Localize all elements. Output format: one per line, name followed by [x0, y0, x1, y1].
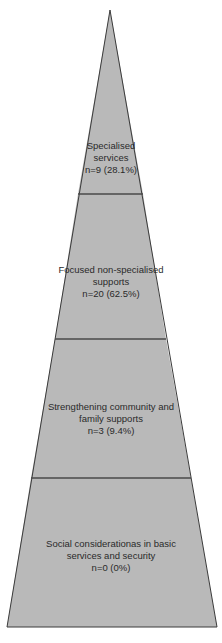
tier-1-stat: n=9 (28.1%): [0, 164, 222, 176]
tier-1-title-line-2: services: [0, 152, 222, 164]
tier-3-label: Strengthening community and family suppo…: [0, 401, 222, 437]
tier-4-title-line-1: Social considerationas in basic: [0, 538, 222, 550]
tier-2-stat: n=20 (62.5%): [0, 288, 222, 300]
tier-2-label: Focused non-specialised supports n=20 (6…: [0, 264, 222, 300]
tier-3-title-line-2: family supports: [0, 413, 222, 425]
tier-4-label: Social considerationas in basic services…: [0, 538, 222, 574]
tier-1-title-line-1: Specialised: [0, 140, 222, 152]
tier-2-title-line-2: supports: [0, 276, 222, 288]
tier-3-title-line-1: Strengthening community and: [0, 401, 222, 413]
tier-4-stat: n=0 (0%): [0, 562, 222, 574]
tier-2-title-line-1: Focused non-specialised: [0, 264, 222, 276]
tier-3-stat: n=3 (9.4%): [0, 425, 222, 437]
tier-4-title-line-2: services and security: [0, 550, 222, 562]
tier-1-label: Specialised services n=9 (28.1%): [0, 140, 222, 176]
